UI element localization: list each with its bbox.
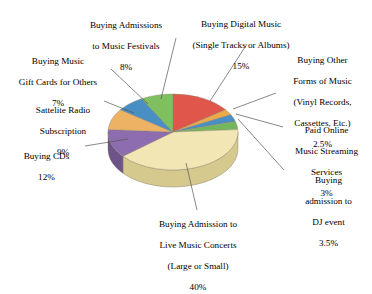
label-satellite-radio-value: 9% [22, 147, 104, 158]
label-satellite-radio-line2: Subscription [22, 126, 104, 137]
label-dj-event-line1: Buying [285, 175, 372, 186]
label-other-forms-line1: Buying Other [275, 55, 370, 66]
label-digital-music-line1: Buying Digital Music [178, 19, 304, 30]
pie-slices-group [108, 94, 238, 187]
label-other-forms-line2: Forms of Music [275, 76, 370, 87]
label-festivals-value: 8% [70, 62, 182, 73]
label-dj-event-line2: admission to [285, 196, 372, 207]
label-paid-streaming-line2: Music Streaming [281, 146, 372, 157]
label-paid-streaming-line1: Paid Online [281, 125, 372, 136]
leader-line-other-forms [233, 93, 276, 109]
label-dj-event-value: 3.5% [285, 238, 372, 249]
label-live-concerts-line3: (Large or Small) [133, 261, 263, 272]
label-cds-value: 12% [10, 172, 83, 183]
label-dj-event-line3: DJ event [285, 217, 372, 228]
label-dj-event: Buying admission to DJ event 3.5% [285, 164, 372, 259]
label-live-concerts: Buying Admission to Live Music Concerts … [133, 208, 263, 294]
label-live-concerts-line1: Buying Admission to [133, 219, 263, 230]
label-other-forms-line3: (Vinyl Records, [275, 97, 370, 108]
label-festivals: Buying Admissions to Music Festivals 8% [70, 9, 182, 83]
label-live-concerts-value: 40% [133, 282, 263, 293]
label-gift-cards-value: 7% [4, 98, 112, 109]
label-live-concerts-line2: Live Music Concerts [133, 240, 263, 251]
label-festivals-line1: Buying Admissions [70, 20, 182, 31]
label-festivals-line2: to Music Festivals [70, 41, 182, 52]
